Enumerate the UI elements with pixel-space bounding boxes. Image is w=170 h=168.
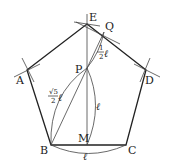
label-c: C bbox=[128, 144, 136, 157]
label-d: D bbox=[145, 74, 154, 87]
label-pq-length: ℓ bbox=[104, 48, 108, 59]
label-b: B bbox=[40, 144, 48, 157]
frac-pq-denominator: 2 bbox=[99, 53, 103, 61]
label-bc-length: ℓ bbox=[83, 151, 87, 162]
label-e: E bbox=[89, 11, 97, 24]
frac-bp-denominator: 2 bbox=[51, 97, 55, 105]
label-q: Q bbox=[105, 20, 114, 33]
line-bq bbox=[51, 32, 104, 145]
pentagon-outline bbox=[27, 24, 146, 145]
label-m: M bbox=[78, 132, 89, 145]
arc-bc bbox=[51, 145, 126, 154]
label-a: A bbox=[15, 74, 25, 87]
pentagon-diagram: E Q A D P M B C 1 2 ℓ √5 2 ℓ ℓ ℓ bbox=[0, 0, 170, 168]
label-p: P bbox=[75, 63, 83, 76]
label-bp-length: ℓ bbox=[58, 92, 62, 103]
frac-bp-numerator: √5 bbox=[49, 88, 58, 96]
frac-pq-numerator: 1 bbox=[99, 44, 103, 52]
label-pm-length: ℓ bbox=[96, 101, 100, 112]
